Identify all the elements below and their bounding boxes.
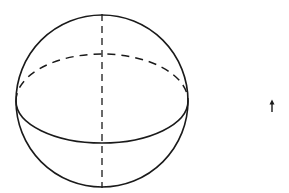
up-arrow-icon xyxy=(270,100,275,113)
sphere-diagram xyxy=(0,0,289,193)
